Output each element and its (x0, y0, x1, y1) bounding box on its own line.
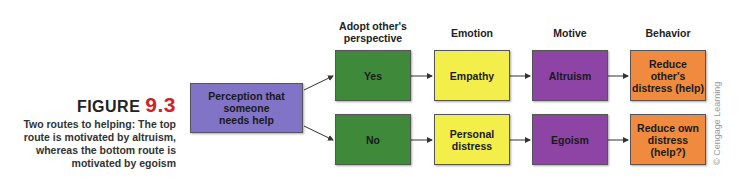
box-reduce-others-distress: Reduce other'sdistress (help) (630, 50, 706, 101)
box-egoism: Egoism (532, 114, 608, 165)
box-empathy: Empathy (434, 50, 510, 101)
copyright-credit: © Cengage Learning (712, 82, 722, 165)
box-reduce-own-distress: Reduce owndistress (help?) (630, 114, 706, 165)
box-altruism: Altruism (532, 50, 608, 101)
box-perception: Perception that someoneneeds help (190, 83, 303, 133)
box-no: No (335, 114, 411, 165)
box-yes: Yes (335, 50, 411, 101)
box-personal-distress: Personaldistress (434, 114, 510, 165)
